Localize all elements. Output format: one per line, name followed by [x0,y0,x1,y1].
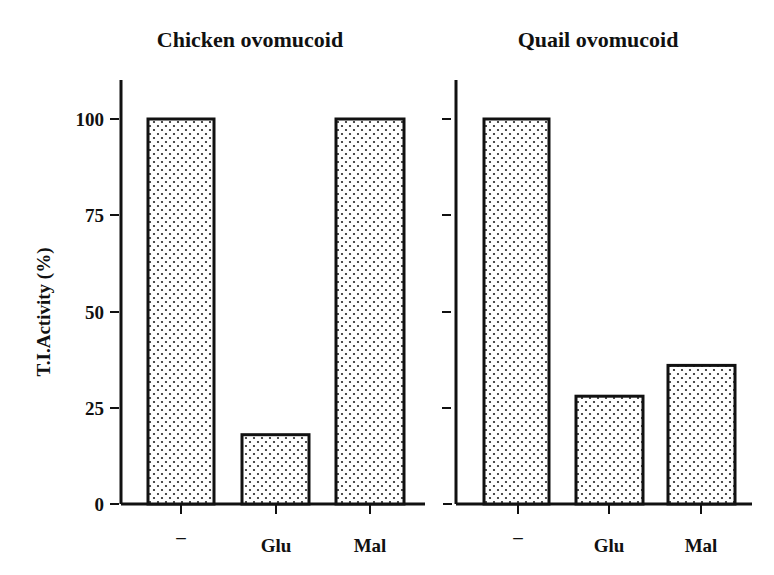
y-tick-50: 50 [85,302,104,323]
bar-none [148,119,214,504]
right-panel-title: Quail ovomucoid [518,27,679,52]
bar-none [484,119,549,504]
left-panel-title: Chicken ovomucoid [157,27,343,52]
left-category-mal: Mal [354,535,387,556]
y-tick-25: 25 [85,398,104,419]
left-panel-bars [148,119,404,504]
left-category-glu: Glu [261,535,292,556]
y-axis-label: T.I.Activity (%) [33,248,55,377]
left-category-none: – [175,526,186,547]
bar-glu [242,435,309,504]
bar-mal [668,365,735,504]
y-tick-0: 0 [95,494,105,515]
right-category-none: – [512,526,523,547]
y-tick-100: 100 [76,109,105,130]
right-category-mal: Mal [685,535,718,556]
y-tick-75: 75 [85,205,104,226]
right-category-glu: Glu [594,535,625,556]
bar-glu [576,396,643,504]
bar-chart-figure: Chicken ovomucoid Quail ovomucoid T.I.Ac… [0,0,774,575]
bar-mal [336,119,404,504]
right-panel-bars [484,119,735,504]
